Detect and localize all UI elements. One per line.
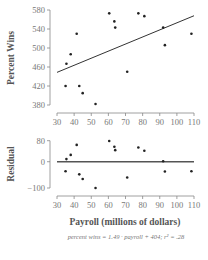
top-x-tick-label: 30 bbox=[53, 117, 62, 127]
x-axis-title: Payroll (millions of dollars) bbox=[70, 217, 181, 228]
top-data-point bbox=[137, 12, 140, 15]
residual-y-tick-label: 0 bbox=[41, 157, 45, 167]
top-x-tick-label: 110 bbox=[188, 117, 200, 127]
residual-data-point bbox=[162, 160, 165, 163]
residual-y-axis-title: Residual bbox=[6, 146, 16, 182]
residual-x-tick-label: 40 bbox=[70, 200, 79, 210]
top-x-tick-label: 40 bbox=[70, 117, 79, 127]
top-y-tick-label: 460 bbox=[32, 62, 45, 72]
top-data-point bbox=[113, 20, 116, 23]
top-y-tick-label: 500 bbox=[32, 43, 45, 53]
residual-x-tick-label: 30 bbox=[53, 200, 62, 210]
chart-figure: 380420460500540580 30405060708090100110 … bbox=[0, 0, 208, 260]
top-data-point bbox=[190, 32, 193, 35]
top-x-tick-label: 80 bbox=[138, 117, 147, 127]
top-x-tick-label: 60 bbox=[104, 117, 113, 127]
residual-points bbox=[64, 140, 192, 190]
top-data-point bbox=[94, 103, 97, 106]
top-y-tick-label: 420 bbox=[32, 81, 45, 91]
regression-caption: percent wins = 1.49 · payroll + 404; r² … bbox=[67, 233, 185, 240]
top-data-point bbox=[78, 85, 81, 88]
residual-x-tick-label: 60 bbox=[104, 200, 113, 210]
top-data-point bbox=[64, 85, 67, 88]
top-y-axis-title: Percent Wins bbox=[6, 31, 16, 85]
top-x-tick-label: 50 bbox=[87, 117, 96, 127]
residual-data-point bbox=[78, 173, 81, 176]
top-data-point bbox=[164, 44, 167, 47]
top-data-point bbox=[114, 26, 117, 29]
residual-data-point bbox=[64, 170, 67, 173]
residual-plot: −100080 30405060708090100110 Residual Pa… bbox=[6, 136, 200, 228]
top-x-tick-label: 100 bbox=[171, 117, 184, 127]
residual-data-point bbox=[108, 140, 111, 143]
top-data-point bbox=[69, 53, 72, 56]
residual-data-point bbox=[114, 149, 117, 152]
top-x-ticks: 30405060708090100110 bbox=[53, 113, 200, 127]
top-data-point bbox=[108, 12, 111, 15]
top-data-point bbox=[75, 32, 78, 35]
residual-data-point bbox=[81, 178, 84, 181]
residual-y-tick-label: 80 bbox=[37, 136, 46, 146]
residual-x-tick-label: 90 bbox=[156, 200, 165, 210]
regression-line bbox=[57, 16, 194, 73]
top-y-ticks: 380420460500540580 bbox=[32, 5, 50, 110]
top-y-tick-label: 380 bbox=[32, 100, 45, 110]
residual-x-tick-label: 100 bbox=[171, 200, 184, 210]
residual-x-tick-label: 50 bbox=[87, 200, 96, 210]
residual-data-point bbox=[75, 144, 78, 147]
top-x-tick-label: 70 bbox=[121, 117, 130, 127]
top-data-point bbox=[162, 26, 165, 29]
residual-x-ticks: 30405060708090100110 bbox=[53, 196, 200, 210]
top-y-tick-label: 580 bbox=[32, 5, 45, 15]
top-x-tick-label: 90 bbox=[156, 117, 165, 127]
residual-y-tick-label: −100 bbox=[27, 183, 45, 193]
residual-data-point bbox=[190, 170, 193, 173]
residual-data-point bbox=[164, 170, 167, 173]
top-data-point bbox=[81, 92, 84, 95]
top-data-point bbox=[143, 15, 146, 18]
residual-data-point bbox=[113, 145, 116, 148]
residual-y-ticks: −100080 bbox=[27, 136, 50, 193]
top-data-point bbox=[126, 70, 129, 73]
top-y-tick-label: 540 bbox=[32, 24, 45, 34]
residual-data-point bbox=[65, 158, 68, 161]
residual-data-point bbox=[137, 146, 140, 149]
residual-x-tick-label: 80 bbox=[138, 200, 147, 210]
scatter-plot-percent-wins: 380420460500540580 30405060708090100110 … bbox=[6, 5, 200, 127]
residual-x-tick-label: 70 bbox=[121, 200, 130, 210]
residual-data-point bbox=[94, 187, 97, 190]
residual-data-point bbox=[143, 149, 146, 152]
residual-data-point bbox=[126, 176, 129, 179]
top-points bbox=[64, 12, 192, 105]
residual-data-point bbox=[69, 154, 72, 157]
top-data-point bbox=[65, 62, 68, 65]
residual-x-tick-label: 110 bbox=[188, 200, 200, 210]
